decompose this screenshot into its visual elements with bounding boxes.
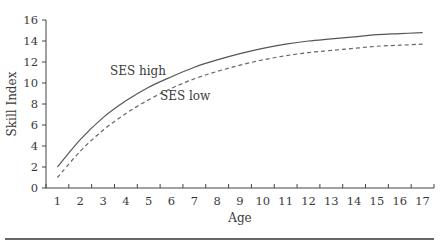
x-tick-label: 1	[54, 194, 61, 208]
y-tick-label: 12	[23, 55, 38, 69]
x-tick-label: 13	[324, 194, 339, 208]
x-tick-label: 10	[256, 194, 271, 208]
y-axis: 0246810121416	[23, 13, 46, 195]
x-tick-label: 9	[236, 194, 243, 208]
x-tick-label: 14	[347, 194, 362, 208]
y-tick-label: 6	[31, 118, 38, 132]
series-lines	[57, 33, 422, 178]
line-chart: 0246810121416 1234567891011121314151617 …	[0, 0, 442, 241]
x-tick-label: 7	[191, 194, 198, 208]
y-tick-label: 14	[23, 34, 38, 48]
y-axis-title: Skill Index	[5, 71, 19, 136]
x-tick-label: 6	[168, 194, 175, 208]
x-tick-label: 4	[122, 194, 129, 208]
y-tick-label: 4	[31, 139, 38, 153]
y-tick-label: 2	[31, 160, 38, 174]
x-tick-label: 17	[415, 194, 430, 208]
y-tick-label: 10	[23, 76, 38, 90]
x-tick-label: 5	[145, 194, 152, 208]
series-line-ses-high	[57, 33, 422, 167]
x-tick-label: 12	[301, 194, 316, 208]
x-tick-label: 8	[214, 194, 221, 208]
y-tick-label: 0	[31, 181, 38, 195]
series-label-ses-low: SES low	[160, 89, 211, 103]
x-tick-label: 15	[370, 194, 385, 208]
x-tick-label: 11	[278, 194, 293, 208]
y-tick-label: 16	[23, 13, 38, 27]
x-tick-label: 3	[99, 194, 106, 208]
x-axis-title: Age	[227, 211, 251, 225]
x-tick-label: 2	[77, 194, 84, 208]
x-axis: 1234567891011121314151617	[46, 184, 434, 208]
x-tick-label: 16	[392, 194, 407, 208]
series-label-ses-high: SES high	[110, 64, 166, 78]
y-tick-label: 8	[31, 97, 38, 111]
